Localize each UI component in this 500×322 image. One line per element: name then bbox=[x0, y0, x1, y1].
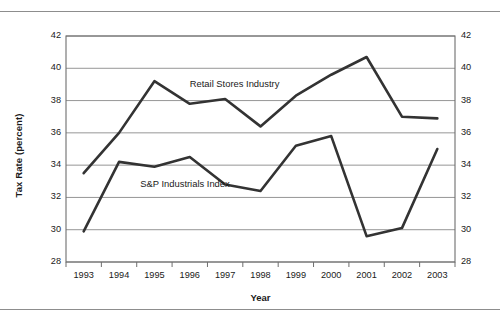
series-annotation: Retail Stores Industry bbox=[190, 78, 280, 89]
y-tick-label: 28 bbox=[461, 256, 491, 266]
y-tick-label: 42 bbox=[461, 30, 491, 40]
x-tick-label: 2000 bbox=[311, 270, 351, 280]
y-tick-label: 40 bbox=[461, 62, 491, 72]
y-tick-label: 38 bbox=[31, 95, 61, 105]
figure-container: Tax Rate (percent) Year 4240383634323028… bbox=[0, 0, 500, 322]
y-tick-label: 36 bbox=[461, 127, 491, 137]
x-tick-label: 1993 bbox=[64, 270, 104, 280]
y-tick-label: 34 bbox=[31, 159, 61, 169]
y-tick-label: 40 bbox=[31, 62, 61, 72]
y-tick-label: 32 bbox=[31, 191, 61, 201]
y-tick-label: 38 bbox=[461, 95, 491, 105]
x-axis-ticks bbox=[66, 262, 455, 267]
y-tick-label: 36 bbox=[31, 127, 61, 137]
x-tick-label: 1997 bbox=[205, 270, 245, 280]
y-tick-label: 30 bbox=[461, 224, 491, 234]
series-annotation: S&P Industrials Index bbox=[140, 178, 229, 189]
y-tick-label: 32 bbox=[461, 191, 491, 201]
x-tick-label: 1995 bbox=[134, 270, 174, 280]
x-tick-label: 2001 bbox=[347, 270, 387, 280]
x-tick-label: 1999 bbox=[276, 270, 316, 280]
x-tick-label: 1998 bbox=[241, 270, 281, 280]
y-tick-label: 34 bbox=[461, 159, 491, 169]
caption-fragment bbox=[42, 314, 442, 320]
x-tick-label: 2002 bbox=[382, 270, 422, 280]
x-tick-label: 2003 bbox=[417, 270, 457, 280]
x-tick-label: 1996 bbox=[170, 270, 210, 280]
y-tick-label: 28 bbox=[31, 256, 61, 266]
x-tick-label: 1994 bbox=[99, 270, 139, 280]
y-tick-label: 42 bbox=[31, 30, 61, 40]
y-tick-label: 30 bbox=[31, 224, 61, 234]
